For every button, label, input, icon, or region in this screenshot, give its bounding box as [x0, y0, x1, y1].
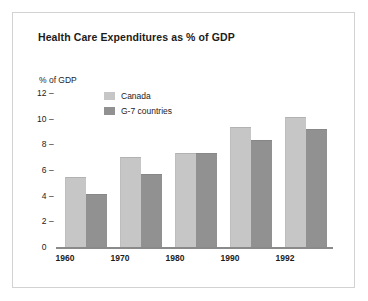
x-tick-label: 1992: [263, 253, 307, 263]
x-tick-label: 1970: [98, 253, 142, 263]
y-tick-label: 2: [33, 216, 47, 226]
x-tick-label: 1990: [208, 253, 252, 263]
y-tick-2: 2–: [33, 216, 57, 226]
bar-canada: [120, 157, 141, 248]
bar-canada: [285, 117, 306, 248]
bar-g7: [306, 129, 327, 248]
y-tick-6: 6–: [33, 165, 57, 175]
y-tick-mark: –: [49, 216, 56, 226]
x-axis-baseline: [56, 247, 333, 249]
y-tick-label: 6: [33, 165, 47, 175]
x-tick-label: 1960: [43, 253, 87, 263]
bar-g7: [141, 174, 162, 248]
y-tick-mark: –: [49, 88, 56, 98]
chart-figure: Health Care Expenditures as % of GDP % o…: [0, 0, 368, 301]
y-tick-mark: –: [49, 139, 56, 149]
y-tick-mark: –: [49, 114, 56, 124]
y-tick-label: 0: [33, 242, 47, 252]
y-tick-label: 12: [33, 88, 47, 98]
bar-g7: [196, 153, 217, 248]
y-tick-10: 10–: [33, 114, 57, 124]
y-tick-8: 8–: [33, 139, 57, 149]
y-tick-4: 4–: [33, 191, 57, 201]
bar-g7: [251, 140, 272, 248]
y-tick-0: 0: [33, 242, 57, 252]
bar-canada: [65, 177, 86, 248]
y-tick-label: 8: [33, 139, 47, 149]
y-tick-label: 4: [33, 191, 47, 201]
x-tick-label: 1980: [153, 253, 197, 263]
y-tick-label: 10: [33, 114, 47, 124]
plot-area: [56, 88, 333, 248]
y-tick-mark: –: [49, 165, 56, 175]
bar-canada: [230, 127, 251, 248]
bar-g7: [86, 194, 107, 248]
y-tick-12: 12–: [33, 88, 57, 98]
y-tick-mark: –: [49, 191, 56, 201]
chart-title: Health Care Expenditures as % of GDP: [38, 31, 235, 43]
bar-canada: [175, 153, 196, 248]
